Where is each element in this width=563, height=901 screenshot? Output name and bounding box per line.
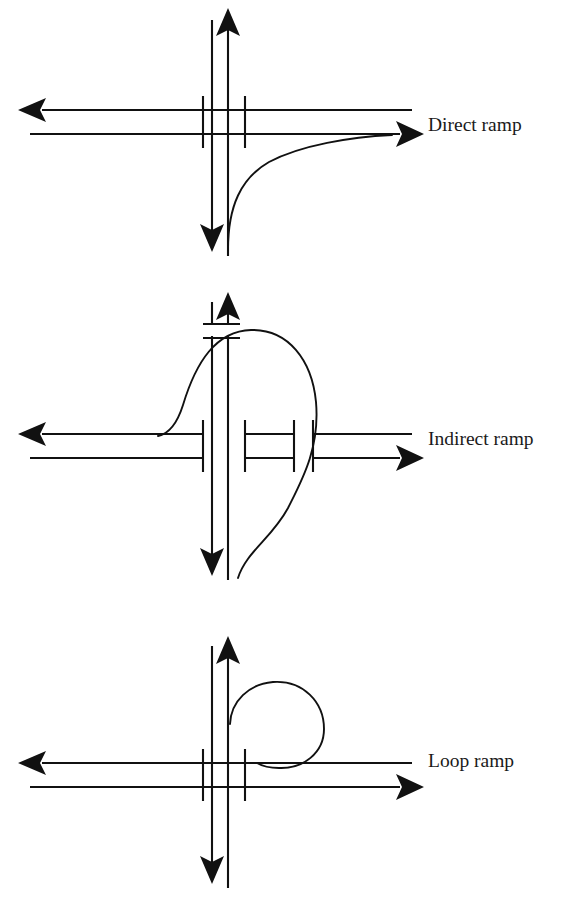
east-arrow-icon (396, 121, 424, 147)
east-arrow-icon (396, 445, 424, 471)
ramp-types-figure: Direct ramp (0, 0, 563, 901)
arrowheads-direct (18, 8, 424, 252)
horizontal-road-loop (30, 763, 412, 787)
loop-ramp-label: Loop ramp (428, 750, 514, 771)
direct-ramp-curve (228, 135, 392, 250)
diagram-loop-ramp: Loop ramp (18, 636, 514, 888)
road-caps-loop (203, 749, 245, 801)
road-caps-indirect (203, 324, 313, 472)
road-caps-direct (203, 96, 245, 148)
direct-ramp-label: Direct ramp (428, 114, 522, 135)
west-arrow-icon (18, 98, 46, 122)
vertical-road-direct (212, 20, 228, 256)
indirect-ramp-label: Indirect ramp (428, 428, 534, 449)
east-arrow-icon (396, 774, 424, 800)
diagram-direct-ramp: Direct ramp (18, 8, 522, 256)
west-arrow-icon (18, 751, 46, 775)
west-arrow-icon (18, 422, 46, 446)
horizontal-road-indirect (30, 434, 412, 458)
diagram-indirect-ramp: Indirect ramp (18, 292, 534, 580)
arrowheads-loop (18, 636, 424, 884)
ramp-diagram-svg: Direct ramp (0, 0, 563, 901)
vertical-road-indirect (212, 302, 228, 580)
indirect-ramp-curve (158, 330, 317, 578)
vertical-road-loop (212, 646, 228, 888)
horizontal-road-direct (30, 110, 412, 134)
